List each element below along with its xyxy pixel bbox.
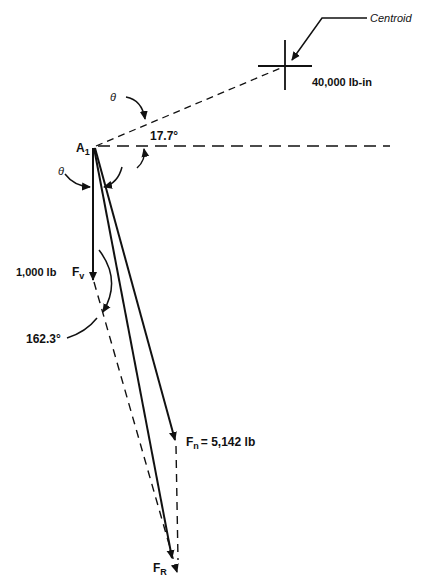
angle-17-label: 17.7° [150, 129, 178, 143]
theta-left-label: θ [58, 165, 64, 177]
fn-shifted-dashed [94, 282, 177, 572]
fr-label: FR [153, 561, 167, 577]
moment-label: 40,000 lb-in [312, 76, 372, 88]
fr-vector [94, 148, 172, 558]
theta-top-label: θ [110, 91, 116, 103]
theta-left-arc [65, 174, 90, 187]
fn-vector [95, 148, 175, 440]
centroid-label: Centroid [370, 12, 412, 24]
moment-arm-line [96, 67, 283, 146]
angle-162-label: 162.3° [26, 332, 61, 346]
fv-value-label: 1,000 lb [16, 266, 57, 278]
angle-162-leader [67, 318, 97, 338]
theta-top-arc [126, 97, 145, 119]
angle-162-arc [99, 250, 112, 312]
centroid-leader [292, 18, 367, 60]
fn-label: Fn= 5,142 lb [186, 435, 255, 451]
angle-17-arc [137, 149, 144, 168]
point-a1-label: A1 [76, 141, 90, 157]
fv-label: Fv [72, 265, 84, 281]
force-diagram: Centroid 40,000 lb-in θ 17.7° A1 θ 1,000… [0, 0, 428, 588]
inner-angle-arc [104, 167, 122, 187]
centroid-crosshair [258, 40, 312, 90]
fv-shifted-dashed [176, 446, 178, 560]
